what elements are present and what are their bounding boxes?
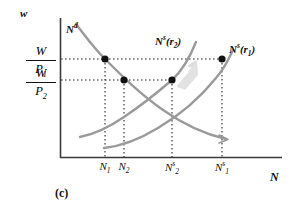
y-tick-wp2-fraction-bar xyxy=(26,82,56,83)
labor-demand-curve xyxy=(76,24,226,139)
x-tick-n1s-sub: 1 xyxy=(225,167,229,176)
x-tick-n2-sub: 2 xyxy=(126,166,130,175)
plot-canvas xyxy=(0,0,297,214)
point-n2-wp2 xyxy=(120,76,127,83)
y-tick-wp2-denominator: P2 xyxy=(26,84,56,101)
y-tick-wp1-numerator: W xyxy=(26,44,56,59)
y-tick-wp2-denominator-sub: 2 xyxy=(43,92,47,101)
x-tick-n1-base: N xyxy=(99,160,106,172)
point-n1s-wp1 xyxy=(218,55,225,62)
point-n1-wp1 xyxy=(101,55,108,62)
x-tick-n1-sub: 1 xyxy=(107,166,111,175)
x-tick-n2-base: N xyxy=(118,160,125,172)
labor-supply-r1-label-base: N xyxy=(229,43,237,55)
labor-supply-r2-curve-label: Ns(r2) xyxy=(155,34,181,49)
labor-demand-label-base: N xyxy=(66,23,74,35)
labor-supply-r1-curve xyxy=(104,50,233,148)
supply-shift-arrow xyxy=(177,60,198,90)
labor-supply-r2-label-paren-close: ) xyxy=(178,35,182,47)
point-n2s-wp2 xyxy=(168,76,175,83)
labor-demand-curve-label: Nd xyxy=(66,22,78,35)
y-tick-wp1-fraction-bar xyxy=(26,60,56,61)
labor-supply-r1-label-paren-close: ) xyxy=(252,43,256,55)
figure-caption: (c) xyxy=(55,187,68,199)
y-tick-label-wp2: W P2 xyxy=(26,66,56,101)
labor-supply-r2-label-base: N xyxy=(155,35,163,47)
x-tick-label-n1s: Ns1 xyxy=(209,160,235,175)
labor-demand-label-sup: d xyxy=(74,21,78,30)
x-tick-label-n2: N2 xyxy=(112,161,136,175)
labor-market-figure: w N W P1 W P2 Nd Ns(r2) Ns(r1) N1 N2 Ns2… xyxy=(0,0,297,214)
y-tick-wp2-numerator: W xyxy=(26,66,56,81)
y-axis-label: w xyxy=(20,8,27,19)
x-axis-label: N xyxy=(270,171,279,183)
labor-supply-r1-curve-label: Ns(r1) xyxy=(229,42,255,57)
x-tick-label-n2s: Ns2 xyxy=(159,160,185,175)
labor-supply-r2-label-paren: (r xyxy=(166,35,174,47)
y-tick-wp2-denominator-base: P xyxy=(35,84,43,98)
x-tick-n2s-sub: 2 xyxy=(175,167,179,176)
labor-supply-r1-label-paren: (r xyxy=(240,43,248,55)
